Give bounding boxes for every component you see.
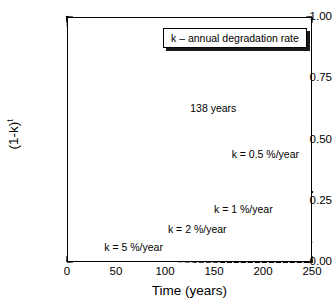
curve-label-k2: k = 2 %/year <box>168 223 227 235</box>
ytick-label-4: 1.00 <box>298 11 332 23</box>
ytick-label-1: 0.25 <box>298 195 332 207</box>
curve-label-k5: k = 5 %/year <box>104 241 163 253</box>
curve-label-k1: k = 1 %/year <box>214 203 273 215</box>
y-axis-title-base: (1-k) <box>6 122 21 150</box>
annotation-label-138-years: 138 years <box>190 102 236 114</box>
xtick-label-4: 200 <box>243 266 283 278</box>
xtick-label-3: 150 <box>194 266 234 278</box>
xtick-label-2: 100 <box>145 266 185 278</box>
x-axis-title: Time (years) <box>67 283 312 298</box>
ytick-label-3: 0.75 <box>298 72 332 84</box>
legend-box: k – annual degradation rate <box>163 28 307 48</box>
xtick-label-1: 50 <box>96 266 136 278</box>
y-axis-title-exponent: t <box>5 119 15 122</box>
chart-container: 1.00 0.75 0.50 0.25 0.00 0 50 100 150 20… <box>0 0 332 308</box>
xtick-label-5: 250 <box>292 266 332 278</box>
y-axis-title: (1-k)t <box>5 99 22 169</box>
curve-label-k05: k = 0.5 %/year <box>232 148 299 160</box>
ytick-label-2: 0.50 <box>298 134 332 146</box>
xtick-label-0: 0 <box>47 266 87 278</box>
